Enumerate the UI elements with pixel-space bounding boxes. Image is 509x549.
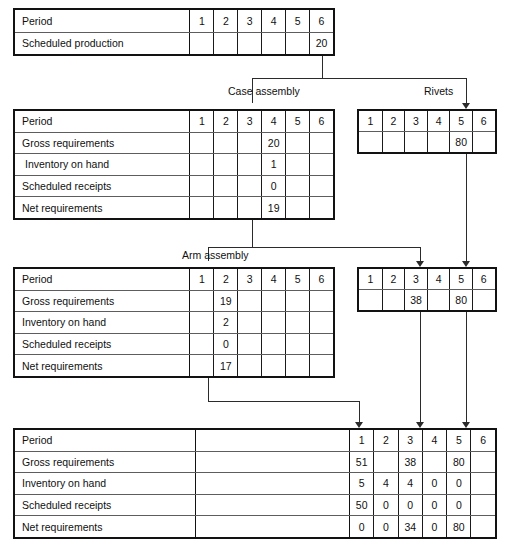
data-cell: 17 — [213, 355, 237, 376]
table-row: Inventory on hand 2 — [15, 311, 333, 333]
period-header-cell: 6 — [472, 269, 495, 289]
table-row: Inventory on hand 5 4 4 0 0 — [15, 472, 495, 494]
data-cell: 20 — [261, 133, 285, 154]
period-header-cell: 5 — [285, 10, 309, 32]
connector-line — [466, 78, 467, 104]
data-cell — [470, 473, 494, 494]
connector-line — [252, 78, 466, 79]
case-assembly-caption: Case assembly — [228, 85, 300, 97]
table-row: Scheduled production 20 — [15, 32, 333, 55]
period-header-cell: 3 — [237, 10, 261, 32]
data-cell — [261, 312, 285, 333]
row-label-inventory-on-hand: Inventory on hand — [15, 312, 189, 333]
data-cell: 20 — [309, 33, 333, 55]
row-label-gross-requirements: Gross requirements — [15, 133, 189, 154]
connector-line — [322, 56, 323, 78]
data-cell — [213, 133, 237, 154]
data-cell — [359, 132, 382, 152]
data-cell — [309, 133, 333, 154]
period-header-cell: 4 — [261, 269, 285, 290]
data-cell: 0 — [398, 495, 422, 516]
data-cell — [422, 452, 446, 473]
table-row: Scheduled receipts 0 — [15, 175, 333, 197]
data-cell — [261, 355, 285, 376]
data-cell: 80 — [449, 132, 472, 152]
data-cell: 0 — [422, 473, 446, 494]
table-row: 80 — [359, 131, 495, 152]
data-cell — [285, 133, 309, 154]
data-cell: 50 — [349, 495, 373, 516]
period-header-cell: 6 — [309, 269, 333, 290]
bottom-component-table: Period 1 2 3 4 5 6 Gross requirements 51… — [13, 428, 497, 539]
table-row: 1 2 3 4 5 6 — [359, 269, 495, 289]
table-row: 1 2 3 4 5 6 — [359, 111, 495, 131]
connector-line — [208, 378, 209, 401]
spacer-cell — [195, 516, 349, 537]
table-row: Gross requirements 51 38 80 — [15, 451, 495, 473]
rivets-table: 1 2 3 4 5 6 80 — [357, 109, 497, 154]
data-cell: 0 — [213, 334, 237, 355]
data-cell — [285, 355, 309, 376]
spacer-cell — [195, 430, 349, 451]
connector-line — [208, 247, 420, 248]
period-header-cell: 4 — [427, 269, 450, 289]
period-header-cell: 3 — [404, 111, 427, 131]
period-header-cell: 2 — [382, 111, 405, 131]
data-cell — [309, 312, 333, 333]
data-cell — [285, 197, 309, 218]
data-cell — [472, 132, 495, 152]
data-cell — [189, 355, 213, 376]
data-cell — [237, 176, 261, 197]
data-cell — [404, 132, 427, 152]
data-cell — [470, 452, 494, 473]
period-header-cell: 2 — [373, 430, 397, 451]
data-cell: 80 — [449, 290, 472, 310]
period-header-cell: 1 — [359, 269, 382, 289]
data-cell: 0 — [446, 495, 470, 516]
row-label-gross-requirements: Gross requirements — [15, 452, 195, 473]
row-label-net-requirements: Net requirements — [15, 197, 189, 218]
row-label-scheduled-receipts: Scheduled receipts — [15, 495, 195, 516]
data-cell — [472, 290, 495, 310]
rivets-caption: Rivets — [424, 85, 453, 97]
data-cell: 0 — [373, 516, 397, 537]
row-label-scheduled-receipts: Scheduled receipts — [15, 334, 189, 355]
data-cell — [189, 312, 213, 333]
period-header-cell: 5 — [449, 269, 472, 289]
data-cell — [213, 176, 237, 197]
row-label-gross-requirements: Gross requirements — [15, 291, 189, 312]
arm-assembly-caption: Arm assembly — [182, 249, 249, 261]
spacer-cell — [195, 452, 349, 473]
period-header-cell: 2 — [213, 10, 237, 32]
data-cell — [427, 132, 450, 152]
period-header-cell: 4 — [427, 111, 450, 131]
data-cell: 0 — [446, 473, 470, 494]
data-cell: 5 — [349, 473, 373, 494]
data-cell — [189, 154, 213, 175]
data-cell — [237, 33, 261, 55]
data-cell — [309, 291, 333, 312]
connector-line — [252, 220, 253, 247]
mrp-diagram: Period 1 2 3 4 5 6 Scheduled production … — [0, 0, 509, 549]
period-header-cell: 5 — [285, 269, 309, 290]
table-row: Inventory on hand 1 — [15, 153, 333, 175]
data-cell — [213, 33, 237, 55]
period-header-cell: 1 — [189, 10, 213, 32]
period-header-cell: 6 — [309, 10, 333, 32]
data-cell — [237, 291, 261, 312]
row-label-net-requirements: Net requirements — [15, 355, 189, 376]
data-cell: 51 — [349, 452, 373, 473]
arm-assembly-table: Period 1 2 3 4 5 6 Gross requirements 19… — [13, 267, 335, 378]
data-cell — [237, 355, 261, 376]
row-label-scheduled-production: Scheduled production — [15, 33, 189, 55]
data-cell: 80 — [446, 516, 470, 537]
period-header-cell: 3 — [237, 111, 261, 132]
data-cell: 19 — [213, 291, 237, 312]
data-cell: 4 — [373, 473, 397, 494]
data-cell — [309, 154, 333, 175]
data-cell — [189, 33, 213, 55]
data-cell — [470, 495, 494, 516]
table-row: Gross requirements 19 — [15, 290, 333, 312]
table-row: Scheduled receipts 50 0 0 0 0 — [15, 494, 495, 516]
data-cell — [213, 197, 237, 218]
